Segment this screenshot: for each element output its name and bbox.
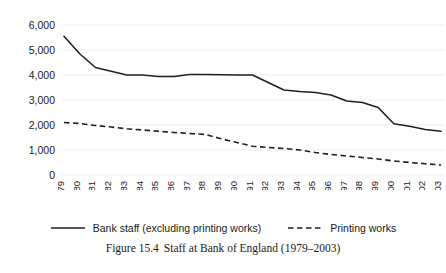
x-axis-tick-label: 1981 <box>86 181 97 190</box>
x-axis-tick-label: 1990 <box>228 181 239 190</box>
x-axis-tick-label: 1986 <box>165 181 176 190</box>
line-chart-svg: 01,0002,0003,0004,0005,0006,000 19791980… <box>0 0 446 190</box>
chart-legend: Bank staff (excluding printing works)Pri… <box>0 218 446 238</box>
x-axis-tick-label: 1985 <box>149 181 160 190</box>
x-axis-tick-label: 1992 <box>259 181 270 190</box>
x-axis-tick-label: 1997 <box>338 181 349 190</box>
series-line <box>64 36 441 131</box>
x-axis-tick-label: 1991 <box>244 181 255 190</box>
solid-line-swatch-icon <box>50 224 86 232</box>
x-axis-tick-label: 1980 <box>71 181 82 190</box>
y-axis-tick-label: 0 <box>49 169 55 181</box>
gridlines <box>62 25 445 175</box>
x-axis-tick-label: 2001 <box>401 181 412 190</box>
dashed-line-swatch-icon <box>287 224 323 232</box>
x-axis-tick-label: 1979 <box>55 181 66 190</box>
x-axis-tick-label: 1989 <box>212 181 223 190</box>
caption-number: Figure 15.4 <box>106 242 159 254</box>
series-line <box>64 123 441 166</box>
y-axis-tick-label: 4,000 <box>29 69 55 81</box>
x-axis-tick-label: 2002 <box>416 181 427 190</box>
caption-text: Staff at Bank of England (1979–2003) <box>164 242 340 254</box>
y-axis-tick-label: 1,000 <box>29 144 55 156</box>
y-axis-tick-label: 2,000 <box>29 119 55 131</box>
x-axis-tick-label: 2003 <box>432 181 443 190</box>
data-series <box>64 36 441 165</box>
x-axis-tick-label: 2000 <box>385 181 396 190</box>
x-axis-tick-label: 1983 <box>118 181 129 190</box>
x-axis-tick-label: 1995 <box>306 181 317 190</box>
x-axis-tick-label: 1994 <box>291 181 302 190</box>
x-axis-tick-label: 1987 <box>181 181 192 190</box>
y-axis-tick-label: 3,000 <box>29 94 55 106</box>
figure-staff-bank-of-england: 01,0002,0003,0004,0005,0006,000 19791980… <box>0 0 446 273</box>
figure-caption: Figure 15.4Staff at Bank of England (197… <box>0 242 446 254</box>
y-axis-tick-label: 6,000 <box>29 19 55 31</box>
x-axis-tick-label: 1993 <box>275 181 286 190</box>
y-axis-tick-label: 5,000 <box>29 44 55 56</box>
x-axis-tick-label: 1982 <box>102 181 113 190</box>
x-axis-tick-labels: 1979198019811982198319841985198619871988… <box>55 181 443 190</box>
legend-entry: Printing works <box>287 222 396 234</box>
x-axis-tick-label: 1988 <box>196 181 207 190</box>
x-axis-tick-label: 1998 <box>353 181 364 190</box>
legend-label: Bank staff (excluding printing works) <box>93 222 261 234</box>
y-axis-tick-labels: 01,0002,0003,0004,0005,0006,000 <box>29 19 55 181</box>
x-axis-tick-label: 1984 <box>134 181 145 190</box>
legend-label: Printing works <box>330 222 396 234</box>
legend-entry: Bank staff (excluding printing works) <box>50 222 261 234</box>
x-axis-tick-label: 1996 <box>322 181 333 190</box>
x-axis-tick-label: 1999 <box>369 181 380 190</box>
chart-plot-area: 01,0002,0003,0004,0005,0006,000 19791980… <box>0 0 446 190</box>
